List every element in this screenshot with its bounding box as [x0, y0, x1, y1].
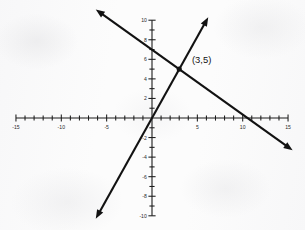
graph-plot-area: -15-10-551015 -10-8-6-4-2246810 (3,5): [0, 0, 305, 230]
x-tick-label: -10: [58, 124, 66, 130]
x-tick-label: -15: [12, 124, 20, 130]
shallow-line-segment: [100, 12, 289, 147]
x-tick-label: 5: [196, 124, 199, 130]
steep-line-arrowhead: [96, 209, 103, 219]
x-tick-label: 10: [240, 124, 246, 130]
y-tick-label: -8: [142, 193, 147, 199]
y-tick-label: 6: [144, 56, 147, 62]
y-tick-label: -10: [139, 213, 147, 219]
y-tick-label: 8: [144, 37, 147, 43]
y-tick-label: -4: [142, 154, 147, 160]
y-tick-label: 10: [141, 17, 147, 23]
intersection-dot: [177, 67, 182, 72]
y-tick-label: 4: [144, 76, 147, 82]
coordinate-plane-figure: -15-10-551015 -10-8-6-4-2246810 (3,5): [0, 0, 305, 230]
x-tick-label: 15: [285, 124, 291, 130]
plotted-lines-group: [96, 9, 293, 218]
x-tick-label: -5: [104, 124, 109, 130]
y-tick-label: -6: [142, 174, 147, 180]
steep-line-arrowhead: [201, 17, 208, 27]
intersection-point-label: (3,5): [192, 54, 211, 65]
intersection-marker-group: [177, 67, 182, 72]
y-tick-label: 2: [144, 95, 147, 101]
